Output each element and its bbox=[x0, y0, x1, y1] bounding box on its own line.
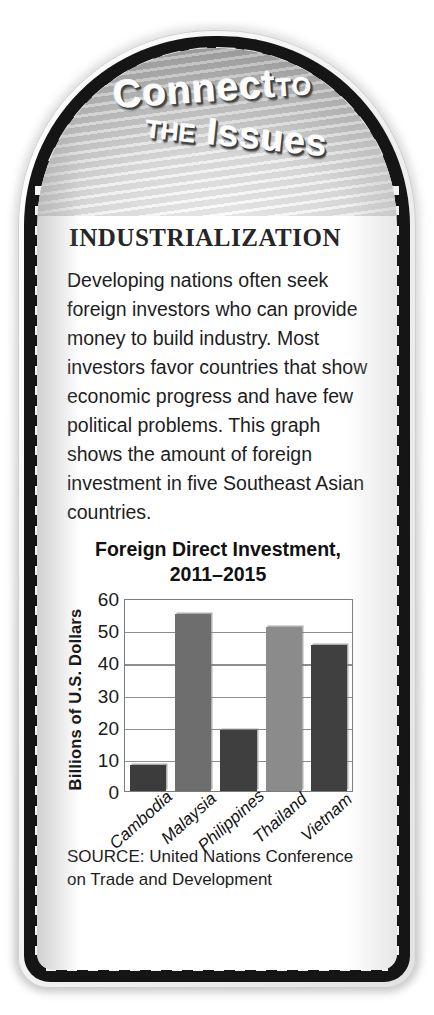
chart-bar bbox=[220, 730, 256, 791]
banner-line-2: THE Issues bbox=[144, 105, 330, 166]
banner-title: ConnectTO THE Issues bbox=[37, 48, 397, 216]
chart-y-tick: 10 bbox=[98, 750, 119, 769]
chart-y-axis-ticks: 6050403020100 bbox=[87, 599, 121, 792]
chart-title-line-2: 2011–2015 bbox=[67, 562, 369, 587]
chart-source-note: SOURCE: United Nations Conference on Tra… bbox=[67, 845, 371, 891]
chart-bar bbox=[311, 645, 347, 791]
chart-plot-region: Billions of U.S. Dollars 6050403020100 C… bbox=[69, 599, 369, 827]
banner-line-1: ConnectTO bbox=[112, 59, 314, 117]
feature-body: INDUSTRIALIZATION Developing nations oft… bbox=[37, 216, 397, 827]
chart-bars bbox=[125, 600, 352, 791]
chart-y-axis-label-text: Billions of U.S. Dollars bbox=[67, 608, 86, 790]
section-heading: INDUSTRIALIZATION bbox=[69, 224, 369, 252]
chart-bar bbox=[175, 614, 211, 791]
banner-to-text: TO bbox=[276, 71, 314, 101]
banner-header: ConnectTO THE Issues bbox=[37, 48, 397, 216]
chart-y-tick: 40 bbox=[98, 654, 119, 673]
chart-bar-cell bbox=[216, 600, 261, 791]
chart-y-tick: 50 bbox=[98, 622, 119, 641]
chart-block: Foreign Direct Investment, 2011–2015 Bil… bbox=[67, 537, 369, 827]
chart-title: Foreign Direct Investment, 2011–2015 bbox=[67, 537, 369, 587]
chart-bar-cell bbox=[170, 600, 215, 791]
chart-y-axis-label: Billions of U.S. Dollars bbox=[65, 599, 87, 799]
banner-the-text: THE bbox=[144, 115, 197, 148]
chart-bar bbox=[266, 627, 302, 791]
chart-bar-cell bbox=[125, 600, 170, 791]
chart-y-tick: 60 bbox=[98, 590, 119, 609]
feature-paragraph: Developing nations often seek foreign in… bbox=[67, 266, 369, 527]
chart-x-tick-label: Vietnam bbox=[297, 790, 357, 846]
chart-bar-cell bbox=[307, 600, 352, 791]
chart-bar bbox=[130, 765, 166, 791]
chart-bar-cell bbox=[261, 600, 306, 791]
chart-title-line-1: Foreign Direct Investment, bbox=[67, 537, 369, 562]
chart-plot-area bbox=[124, 599, 353, 792]
feature-card: ConnectTO THE Issues INDUSTRIALIZATION D… bbox=[37, 48, 397, 970]
banner-issues-text: Issues bbox=[205, 111, 330, 164]
chart-y-tick: 20 bbox=[98, 718, 119, 737]
chart-y-tick: 30 bbox=[98, 686, 119, 705]
chart-y-tick: 0 bbox=[108, 783, 119, 802]
feature-box-page: ConnectTO THE Issues INDUSTRIALIZATION D… bbox=[0, 0, 434, 1015]
banner-connect-text: Connect bbox=[112, 62, 278, 116]
